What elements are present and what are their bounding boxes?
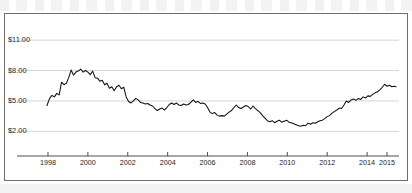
series-line-price: [47, 69, 396, 126]
x-axis-tick-label: 2014: [359, 158, 375, 167]
price-line-chart: $2.00$5.00$8.00$11.00 199820002002200420…: [5, 14, 407, 180]
x-axis-tick-label: 2012: [319, 158, 335, 167]
gridlines-group: [17, 40, 399, 131]
y-axis-labels-group: $2.00$5.00$8.00$11.00: [8, 35, 30, 135]
y-axis-tick-label: $5.00: [8, 96, 27, 105]
data-series-group: [47, 69, 396, 126]
x-axis-tick-label: 2002: [120, 158, 136, 167]
x-axis-tick-label: 1998: [40, 158, 56, 167]
x-axis-tick-label: 2015: [379, 158, 395, 167]
y-axis-tick-label: $8.00: [8, 66, 27, 75]
x-axis-tick-label: 2006: [200, 158, 216, 167]
scan-artifact-top-band: [0, 0, 412, 11]
x-axis-tick-label: 2000: [80, 158, 96, 167]
y-axis-tick-label: $11.00: [8, 35, 30, 44]
chart-frame: $2.00$5.00$8.00$11.00 199820002002200420…: [4, 13, 408, 181]
scan-artifact-bottom-band: [0, 184, 412, 193]
x-axis-group: 1998200020022004200620082010201220142015: [17, 152, 399, 167]
x-axis-tick-label: 2010: [279, 158, 295, 167]
x-axis-tick-label: 2004: [160, 158, 176, 167]
y-axis-tick-label: $2.00: [8, 126, 27, 135]
x-axis-tick-label: 2008: [239, 158, 255, 167]
